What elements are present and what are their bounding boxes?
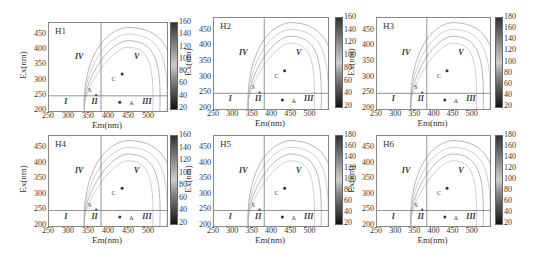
region-label-iii: III bbox=[466, 94, 475, 103]
peak-label-s: S bbox=[88, 87, 91, 93]
colorbar bbox=[335, 17, 343, 108]
peak-label-c: C bbox=[274, 73, 278, 79]
region-label-ii: II bbox=[255, 94, 261, 103]
y-axis-label: Ex(nm) bbox=[183, 37, 193, 87]
x-tick: 500 bbox=[460, 110, 484, 118]
y-tick: 450 bbox=[354, 143, 374, 151]
peak-label-a: A bbox=[129, 215, 133, 221]
region-label-ii: II bbox=[418, 94, 424, 103]
peak-label-c: C bbox=[112, 76, 116, 82]
region-label-ii: II bbox=[418, 212, 424, 221]
peak-label-c: C bbox=[112, 190, 116, 196]
peak-label-c: C bbox=[274, 190, 278, 196]
peak-label-s: S bbox=[252, 84, 255, 90]
colorbar-tick: 180 bbox=[344, 131, 356, 139]
y-tick: 250 bbox=[26, 91, 46, 99]
colorbar bbox=[170, 22, 178, 110]
y-tick: 300 bbox=[191, 73, 211, 81]
x-tick: 500 bbox=[136, 112, 160, 120]
y-tick: 250 bbox=[354, 205, 374, 213]
region-label-i: I bbox=[64, 212, 67, 221]
colorbar-tick: 60 bbox=[504, 197, 512, 205]
y-tick: 350 bbox=[354, 174, 374, 182]
x-axis-label: Em(nm) bbox=[240, 235, 300, 245]
colorbar-tick: 40 bbox=[344, 208, 352, 216]
y-tick: 400 bbox=[26, 45, 46, 53]
y-tick: 250 bbox=[191, 88, 211, 96]
y-tick: 250 bbox=[26, 205, 46, 213]
y-tick: 350 bbox=[191, 57, 211, 65]
region-label-ii: II bbox=[91, 97, 97, 106]
colorbar-tick: 160 bbox=[504, 142, 516, 150]
peak-label-a: A bbox=[292, 215, 296, 221]
y-tick: 250 bbox=[354, 88, 374, 96]
colorbar-tick: 100 bbox=[504, 175, 516, 183]
region-label-ii: II bbox=[255, 212, 261, 221]
plot-area: H2 IV V I II III S C A bbox=[213, 17, 329, 110]
colorbar-tick: 40 bbox=[504, 208, 512, 216]
y-tick: 350 bbox=[354, 57, 374, 65]
region-label-iv: IV bbox=[75, 52, 83, 61]
x-tick: 500 bbox=[298, 227, 322, 235]
peak-label-s: S bbox=[414, 84, 417, 90]
colorbar-tick: 20 bbox=[344, 219, 352, 227]
y-tick: 400 bbox=[354, 41, 374, 49]
y-tick: 250 bbox=[191, 205, 211, 213]
peak-label-c: C bbox=[437, 73, 441, 79]
colorbar-tick: 20 bbox=[504, 219, 512, 227]
region-label-iii: III bbox=[304, 94, 313, 103]
peak-label-a: A bbox=[454, 98, 458, 104]
x-axis-label: Em(nm) bbox=[240, 118, 300, 128]
region-label-v: V bbox=[134, 166, 139, 175]
peak-label-a: A bbox=[292, 98, 296, 104]
x-tick: 500 bbox=[298, 110, 322, 118]
region-label-v: V bbox=[296, 166, 301, 175]
region-label-i: I bbox=[392, 94, 395, 103]
colorbar-tick: 140 bbox=[504, 153, 516, 161]
region-label-ii: II bbox=[91, 212, 97, 221]
panel-title: H1 bbox=[55, 26, 66, 36]
colorbar-tick: 20 bbox=[504, 102, 512, 110]
colorbar-tick: 40 bbox=[179, 206, 187, 214]
colorbar-tick: 40 bbox=[504, 91, 512, 99]
x-tick: 500 bbox=[460, 227, 484, 235]
region-label-v: V bbox=[458, 48, 463, 57]
x-axis-label: Em(nm) bbox=[403, 235, 463, 245]
peak-label-s: S bbox=[88, 202, 91, 208]
y-tick: 400 bbox=[354, 159, 374, 167]
y-tick: 350 bbox=[26, 60, 46, 68]
region-label-i: I bbox=[229, 212, 232, 221]
y-tick: 400 bbox=[191, 159, 211, 167]
x-axis-label: Em(nm) bbox=[77, 120, 137, 130]
colorbar-tick: 180 bbox=[504, 13, 516, 21]
colorbar-tick: 100 bbox=[504, 58, 516, 66]
colorbar-tick: 140 bbox=[179, 144, 191, 152]
y-tick: 450 bbox=[191, 26, 211, 34]
y-tick: 450 bbox=[26, 143, 46, 151]
colorbar-tick: 20 bbox=[179, 219, 187, 227]
colorbar-tick: 160 bbox=[179, 131, 191, 139]
colorbar-tick: 160 bbox=[179, 18, 191, 26]
y-axis-label: Ex(nm) bbox=[183, 154, 193, 204]
y-tick: 450 bbox=[354, 26, 374, 34]
colorbar-tick: 60 bbox=[504, 80, 512, 88]
y-tick: 300 bbox=[26, 190, 46, 198]
colorbar-tick: 180 bbox=[504, 131, 516, 139]
y-tick: 450 bbox=[26, 30, 46, 38]
colorbar bbox=[170, 135, 178, 225]
peak-label-a: A bbox=[454, 215, 458, 221]
colorbar-tick: 20 bbox=[344, 102, 352, 110]
colorbar-tick: 40 bbox=[179, 92, 187, 100]
y-tick: 400 bbox=[191, 41, 211, 49]
plot-area: H3 IV V I II III S C A bbox=[376, 17, 491, 110]
colorbar-tick: 160 bbox=[344, 13, 356, 21]
region-label-i: I bbox=[229, 94, 232, 103]
region-label-iii: III bbox=[304, 212, 313, 221]
y-tick: 350 bbox=[191, 174, 211, 182]
colorbar-tick: 20 bbox=[179, 104, 187, 112]
x-axis-label: Em(nm) bbox=[77, 235, 137, 245]
y-axis-label: Ex(nm) bbox=[18, 154, 28, 204]
region-label-iv: IV bbox=[402, 166, 410, 175]
plot-area: H1 IV V I II III S C A bbox=[48, 22, 168, 112]
peak-label-c: C bbox=[437, 190, 441, 196]
